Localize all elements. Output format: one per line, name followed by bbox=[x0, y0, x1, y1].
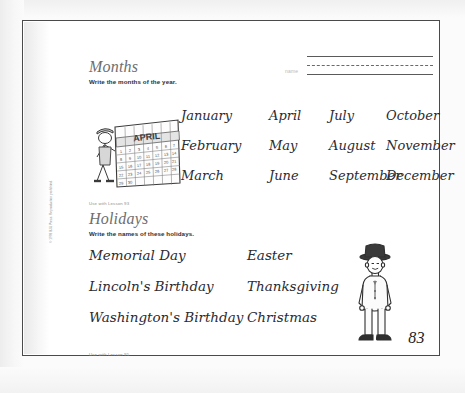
page-number: 83 bbox=[408, 329, 425, 347]
worksheet-page: © 1998 BJU Press. Reproduction prohibite… bbox=[22, 20, 440, 356]
month-april: April bbox=[269, 109, 301, 122]
holidays-answers-grid: Memorial DayEasterLincoln's BirthdayThan… bbox=[89, 249, 379, 333]
name-field[interactable]: name bbox=[285, 54, 433, 80]
month-june: June bbox=[269, 169, 299, 182]
holiday-washington-s-birthday: Washington's Birthday bbox=[89, 311, 243, 325]
page-gutter-shading bbox=[24, 22, 50, 354]
months-section-title: Months bbox=[89, 59, 138, 75]
month-february: February bbox=[181, 139, 241, 152]
scan-shadow-top bbox=[0, 0, 465, 18]
holidays-section-title: Holidays bbox=[89, 211, 148, 227]
scan-background: © 1998 BJU Press. Reproduction prohibite… bbox=[0, 0, 465, 393]
holiday-lincoln-s-birthday: Lincoln's Birthday bbox=[89, 280, 214, 294]
holidays-section-instruction: Write the names of these holidays. bbox=[89, 231, 194, 237]
months-section-instruction: Write the months of the year. bbox=[89, 79, 177, 85]
holiday-thanksgiving: Thanksgiving bbox=[247, 280, 339, 294]
holiday-christmas: Christmas bbox=[247, 311, 317, 325]
month-july: July bbox=[329, 109, 354, 122]
boy-in-hat-illustration bbox=[341, 237, 405, 353]
writing-line-dashed-middle bbox=[307, 65, 433, 66]
month-december: December bbox=[386, 169, 454, 182]
month-october: October bbox=[386, 109, 439, 122]
month-august: August bbox=[329, 139, 375, 152]
holidays-lesson-note: Use with Lesson 95 bbox=[89, 353, 129, 357]
month-may: May bbox=[269, 139, 297, 152]
writing-line-bottom bbox=[307, 74, 433, 75]
copyright-notice: © 1998 BJU Press. Reproduction prohibite… bbox=[50, 180, 53, 243]
month-november: November bbox=[386, 139, 455, 152]
calendar-illustration: APRIL 1 2 3 bbox=[85, 107, 181, 193]
writing-line-top bbox=[307, 56, 433, 57]
name-field-label: name bbox=[285, 68, 298, 74]
name-field-writing-lines bbox=[307, 54, 433, 76]
holiday-easter: Easter bbox=[247, 249, 292, 263]
month-january: January bbox=[181, 109, 232, 122]
holiday-memorial-day: Memorial Day bbox=[89, 249, 186, 263]
scan-shadow-left bbox=[0, 0, 24, 393]
months-lesson-note: Use with Lesson 93 bbox=[89, 202, 129, 206]
month-march: March bbox=[181, 169, 224, 182]
scan-shadow-bottom bbox=[0, 367, 465, 393]
months-answers-grid: JanuaryAprilJulyOctoberFebruaryMayAugust… bbox=[181, 109, 439, 189]
